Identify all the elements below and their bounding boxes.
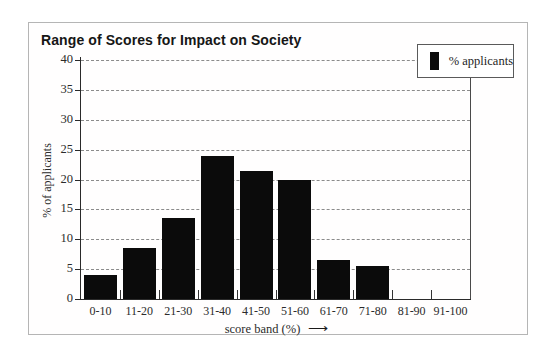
x-tick-label: 21-30 — [159, 304, 198, 319]
y-axis-tick — [75, 299, 80, 300]
y-tick-label: 35 — [43, 82, 73, 97]
gridline — [81, 150, 470, 151]
chart-panel: Range of Scores for Impact on Society % … — [28, 22, 528, 335]
bar — [278, 180, 311, 300]
x-axis-line — [80, 299, 471, 300]
x-tick-label: 81-90 — [392, 304, 431, 319]
gridline — [81, 209, 470, 210]
bar — [201, 156, 234, 299]
x-tick-label: 71-80 — [353, 304, 392, 319]
y-tick-label: 25 — [43, 142, 73, 157]
bar — [317, 260, 350, 299]
legend-label: % applicants — [449, 54, 513, 69]
plot-area — [81, 60, 470, 299]
y-axis-tick — [75, 180, 80, 181]
x-axis-tick — [431, 290, 432, 299]
screenshot-root: Range of Scores for Impact on Society % … — [0, 0, 554, 358]
y-axis-tick — [75, 150, 80, 151]
y-tick-label: 30 — [43, 112, 73, 127]
x-axis-label: score band (%)⟶ — [81, 320, 470, 337]
y-tick-label: 20 — [43, 172, 73, 187]
x-tick-label: 61-70 — [314, 304, 353, 319]
x-axis-tick — [314, 290, 315, 299]
x-tick-label: 41-50 — [237, 304, 276, 319]
gridline — [81, 120, 470, 121]
y-tick-label: 15 — [43, 201, 73, 216]
x-tick-label: 31-40 — [198, 304, 237, 319]
y-axis-tick — [75, 269, 80, 270]
y-axis-tick — [75, 209, 80, 210]
y-tick-label: 10 — [43, 231, 73, 246]
gridline — [81, 180, 470, 181]
bar — [162, 218, 195, 299]
x-tick-label: 11-20 — [120, 304, 159, 319]
y-axis-tick — [75, 60, 80, 61]
x-tick-label: 91-100 — [431, 304, 470, 319]
x-axis-tick — [120, 290, 121, 299]
legend: % applicants — [417, 44, 514, 78]
chart-title: Range of Scores for Impact on Society — [41, 32, 301, 48]
bar — [240, 171, 273, 299]
y-axis-tick — [75, 90, 80, 91]
x-axis-label-text: score band (%) — [225, 322, 301, 336]
bar — [84, 275, 117, 299]
bar — [356, 266, 389, 299]
y-tick-label: 5 — [43, 261, 73, 276]
y-axis-tick — [75, 239, 80, 240]
x-axis-tick — [159, 290, 160, 299]
gridline — [81, 60, 470, 61]
x-tick-label: 51-60 — [276, 304, 315, 319]
gridline — [81, 90, 470, 91]
y-axis-tick — [75, 120, 80, 121]
plot-right-border — [470, 60, 471, 300]
x-axis-tick — [276, 290, 277, 299]
x-axis-tick — [237, 290, 238, 299]
x-tick-label: 0-10 — [81, 304, 120, 319]
x-axis-tick — [353, 290, 354, 299]
gridline — [81, 239, 470, 240]
right-arrow-icon: ⟶ — [308, 320, 326, 337]
x-axis-tick — [392, 290, 393, 299]
y-tick-label: 0 — [43, 291, 73, 306]
y-tick-label: 40 — [43, 52, 73, 67]
bar — [123, 248, 156, 299]
x-axis-tick — [198, 290, 199, 299]
legend-swatch-icon — [430, 52, 439, 70]
